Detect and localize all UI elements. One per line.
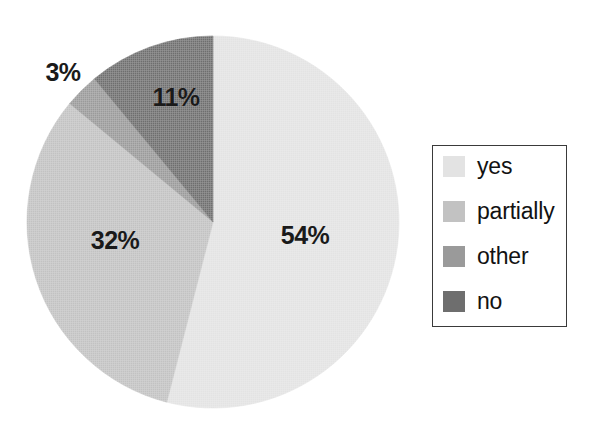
legend-label-yes: yes <box>477 155 512 178</box>
slice-value-label-yes: 54% <box>281 221 330 250</box>
legend-label-partially: partially <box>477 200 554 223</box>
pie-chart-plot-area: 54% 32% 3% 11% <box>0 0 430 421</box>
pie-chart-figure: 54% 32% 3% 11% yes partially other no <box>0 0 599 421</box>
legend-swatch-partially <box>443 201 465 222</box>
legend-item-no[interactable]: no <box>443 288 502 314</box>
slice-value-label-partially: 32% <box>91 226 140 255</box>
pie-slice-group <box>27 36 399 408</box>
legend-label-no: no <box>477 290 502 313</box>
slice-value-label-no: 11% <box>152 83 199 112</box>
legend-swatch-yes <box>443 156 465 177</box>
legend-swatch-other <box>443 246 465 267</box>
legend-item-other[interactable]: other <box>443 243 528 269</box>
legend-label-other: other <box>477 245 528 268</box>
legend-item-yes[interactable]: yes <box>443 153 512 179</box>
legend-item-partially[interactable]: partially <box>443 198 554 224</box>
legend-swatch-no <box>443 291 465 312</box>
slice-value-label-other: 3% <box>45 58 80 87</box>
chart-legend: yes partially other no <box>432 145 567 327</box>
